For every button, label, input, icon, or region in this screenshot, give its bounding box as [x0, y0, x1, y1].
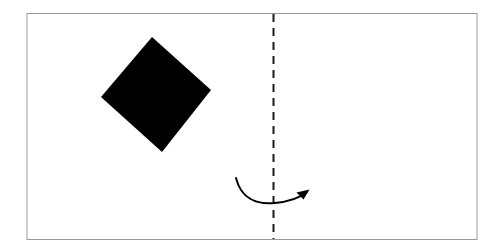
figure-root: Paper folding diagram A rectangular shee…: [0, 0, 497, 251]
fold-diagram-canvas: [0, 0, 497, 251]
sheet-outline: [27, 14, 477, 240]
